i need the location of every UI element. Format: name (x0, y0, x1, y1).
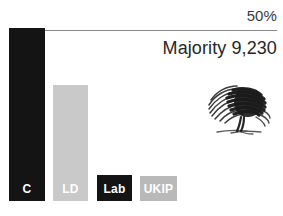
bar-ukip: UKIP (140, 176, 177, 201)
threshold-gridline (45, 30, 277, 31)
majority-label: Majority 9,230 (163, 38, 277, 59)
bar-label-conservative: C (23, 183, 32, 201)
threshold-label: 50% (247, 8, 277, 23)
bar-labour: Lab (97, 175, 132, 201)
bar-label-ukip: UKIP (144, 183, 173, 201)
election-result-bar-chart: 50% Majority 9,230 C LD Lab UKIP (0, 0, 283, 216)
bar-label-liberal-democrat: LD (62, 183, 78, 201)
oak-tree-icon (203, 80, 273, 138)
bar-conservative: C (9, 28, 45, 201)
bar-label-labour: Lab (104, 183, 126, 201)
bar-liberal-democrat: LD (53, 85, 88, 201)
